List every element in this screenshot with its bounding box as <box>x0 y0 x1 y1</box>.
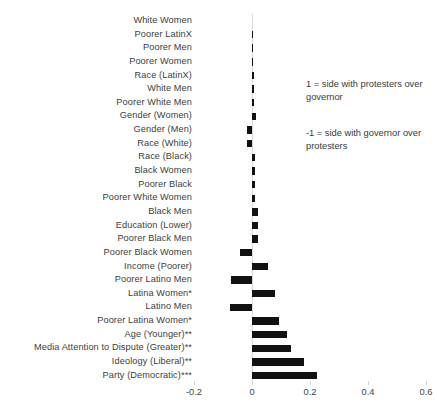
chart-bar <box>252 113 256 120</box>
category-label: Ideology (Liberal)** <box>112 355 192 369</box>
chart-row: Latina Women* <box>0 287 437 301</box>
chart-bar <box>252 372 317 379</box>
chart-row: Poorer Black Men <box>0 232 437 246</box>
x-axis-tick <box>368 381 369 385</box>
chart-row: Poorer Latina Women* <box>0 314 437 328</box>
category-label: Poorer Latino Men <box>115 273 192 287</box>
chart-row: Media Attention to Dispute (Greater)** <box>0 341 437 355</box>
annotation-positive: 1 = side with protesters over governor <box>306 78 426 104</box>
chart-bar <box>252 222 258 229</box>
category-label: Poorer LatinX <box>135 28 192 42</box>
category-label: Poorer Men <box>143 41 192 55</box>
chart-row: Black Men <box>0 205 437 219</box>
chart-row: Poorer Black Women <box>0 246 437 260</box>
category-label: Black Women <box>134 164 192 178</box>
category-label: Poorer Women <box>129 55 192 69</box>
x-axis-tick <box>252 381 253 385</box>
x-axis-tick-label: 0.2 <box>303 386 316 397</box>
category-label: Poorer Black Women <box>104 246 192 260</box>
category-label: Latino Men <box>146 300 192 314</box>
chart-bar <box>252 263 268 270</box>
x-axis-tick-label: 0.6 <box>419 386 432 397</box>
category-label: Black Men <box>148 205 192 219</box>
chart-row: Age (Younger)** <box>0 328 437 342</box>
chart-bar <box>252 317 279 324</box>
chart-bar <box>252 331 287 338</box>
category-label: Age (Younger)** <box>124 328 192 342</box>
x-axis-tick <box>194 381 195 385</box>
category-label: Poorer White Men <box>116 96 192 110</box>
category-label: Party (Democratic)*** <box>103 369 192 383</box>
chart-bar <box>252 167 255 174</box>
category-label: Poorer Black Men <box>117 232 192 246</box>
x-axis-tick <box>310 381 311 385</box>
chart-row: Poorer Men <box>0 41 437 55</box>
chart-row: Party (Democratic)*** <box>0 369 437 383</box>
chart-bar <box>252 208 258 215</box>
chart-row: Poorer Black <box>0 178 437 192</box>
chart-bar <box>252 85 254 92</box>
annotation-negative: -1 = side with governor over protesters <box>306 127 426 153</box>
category-label: Education (Lower) <box>116 219 192 233</box>
chart-row: Poorer Women <box>0 55 437 69</box>
category-label: Poorer Black <box>138 178 192 192</box>
chart-row: Education (Lower) <box>0 219 437 233</box>
chart-row: Black Women <box>0 164 437 178</box>
category-label: Poorer White Women <box>103 191 192 205</box>
chart-row: White Women <box>0 14 437 28</box>
chart-bar <box>252 58 253 65</box>
chart-row: Ideology (Liberal)** <box>0 355 437 369</box>
chart-bar <box>252 290 275 297</box>
chart-bar <box>240 249 252 256</box>
chart-bar <box>247 126 252 133</box>
chart-row: Poorer White Women <box>0 191 437 205</box>
category-label: Gender (Men) <box>134 123 192 137</box>
category-label: Latina Women* <box>128 287 192 301</box>
chart-bar <box>231 276 252 283</box>
chart-row: Poorer Latino Men <box>0 273 437 287</box>
chart-bar <box>252 345 291 352</box>
chart-bar <box>252 31 253 38</box>
chart-row: Income (Poorer) <box>0 260 437 274</box>
chart-row: Latino Men <box>0 300 437 314</box>
category-label: Income (Poorer) <box>124 260 192 274</box>
x-axis-tick-label: 0 <box>249 386 254 397</box>
chart-bar <box>252 358 304 365</box>
chart-bar <box>252 235 258 242</box>
category-label: Race (White) <box>137 137 192 151</box>
category-label: Poorer Latina Women* <box>97 314 192 328</box>
x-axis-tick-label: -0.2 <box>186 386 202 397</box>
chart-bar <box>252 181 255 188</box>
chart-bar <box>252 72 254 79</box>
chart-rows: White WomenPoorer LatinXPoorer MenPoorer… <box>0 14 437 382</box>
category-label: White Women <box>133 14 192 28</box>
x-axis-tick-label: 0.4 <box>361 386 374 397</box>
chart-bar <box>230 304 252 311</box>
chart-bar <box>252 99 254 106</box>
chart-row: Poorer LatinX <box>0 28 437 42</box>
category-label: White Men <box>147 82 192 96</box>
category-label: Media Attention to Dispute (Greater)** <box>34 341 192 355</box>
category-label: Race (Black) <box>138 150 192 164</box>
chart-bar <box>252 154 255 161</box>
chart-row: Gender (Women) <box>0 109 437 123</box>
category-label: Race (LatinX) <box>135 69 192 83</box>
bar-chart: White WomenPoorer LatinXPoorer MenPoorer… <box>0 0 437 420</box>
x-axis-tick <box>426 381 427 385</box>
chart-bar <box>247 140 252 147</box>
category-label: Gender (Women) <box>120 109 192 123</box>
chart-bar <box>252 195 255 202</box>
chart-bar <box>252 44 253 51</box>
